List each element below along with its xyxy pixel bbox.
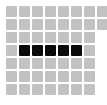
grid-cell-r2-c3[interactable] [32, 19, 43, 30]
grid-cell-r7-c5[interactable] [58, 84, 69, 95]
grid-row [0, 58, 107, 69]
grid-cell-r2-c5[interactable] [58, 19, 69, 30]
grid-cell-r1-c3[interactable] [32, 6, 43, 17]
grid-cell-r1-c8[interactable] [97, 6, 107, 17]
grid-cell-r3-c7[interactable] [84, 32, 95, 43]
grid-cell-r7-c2[interactable] [19, 84, 30, 95]
grid-row [0, 45, 107, 56]
grid-cell-r5-c7[interactable] [84, 58, 95, 69]
grid-cell-r6-c1[interactable] [6, 71, 17, 82]
grid-row [0, 19, 107, 30]
grid-cell-r5-c1[interactable] [6, 58, 17, 69]
grid-cell-r1-c6[interactable] [71, 6, 82, 17]
grid-cell-r5-c5[interactable] [58, 58, 69, 69]
grid-cell-r1-c1[interactable] [6, 6, 17, 17]
grid-cell-r1-c7[interactable] [84, 6, 95, 17]
grid-cell-r7-c6[interactable] [71, 84, 82, 95]
grid-cell-r4-c4[interactable] [45, 45, 56, 56]
grid-row [0, 84, 107, 95]
grid-cell-r7-c3[interactable] [32, 84, 43, 95]
grid-row [0, 71, 107, 82]
grid-cell-r7-c7[interactable] [84, 84, 95, 95]
grid-cell-r3-c5[interactable] [58, 32, 69, 43]
grid-cell-r1-c4[interactable] [45, 6, 56, 17]
grid-cell-r3-c2[interactable] [19, 32, 30, 43]
grid-cell-r6-c2[interactable] [19, 71, 30, 82]
grid-cell-r4-c7[interactable] [84, 45, 95, 56]
grid-cell-r6-c5[interactable] [58, 71, 69, 82]
grid-cell-r3-c3[interactable] [32, 32, 43, 43]
grid-cell-r7-c4[interactable] [45, 84, 56, 95]
grid-cell-r6-c4[interactable] [45, 71, 56, 82]
grid-cell-r2-c4[interactable] [45, 19, 56, 30]
grid-cell-r6-c6[interactable] [71, 71, 82, 82]
grid-cell-r6-c3[interactable] [32, 71, 43, 82]
grid-row [0, 32, 107, 43]
grid-cell-r5-c2[interactable] [19, 58, 30, 69]
grid-cell-r6-c7[interactable] [84, 71, 95, 82]
grid-cell-r2-c7[interactable] [84, 19, 95, 30]
grid-cell-r2-c1[interactable] [6, 19, 17, 30]
grid-cell-r5-c3[interactable] [32, 58, 43, 69]
grid-cell-r7-c1[interactable] [6, 84, 17, 95]
grid-cell-r5-c4[interactable] [45, 58, 56, 69]
grid-cell-r3-c6[interactable] [71, 32, 82, 43]
grid-cell-r4-c5[interactable] [58, 45, 69, 56]
grid-row [0, 6, 107, 17]
grid-cell-r2-c8[interactable] [97, 19, 107, 30]
grid-cell-r5-c6[interactable] [71, 58, 82, 69]
grid-cell-r4-c3[interactable] [32, 45, 43, 56]
grid-cell-r2-c6[interactable] [71, 19, 82, 30]
grid-cell-r4-c1[interactable] [6, 45, 17, 56]
grid-cell-r4-c6[interactable] [71, 45, 82, 56]
grid-cell-r3-c1[interactable] [6, 32, 17, 43]
grid-cell-r4-c2[interactable] [19, 45, 30, 56]
grid-cell-r1-c5[interactable] [58, 6, 69, 17]
grid-cell-r1-c2[interactable] [19, 6, 30, 17]
grid-cell-r2-c2[interactable] [19, 19, 30, 30]
pixel-grid-selector[interactable] [0, 0, 107, 105]
grid-cell-r3-c4[interactable] [45, 32, 56, 43]
